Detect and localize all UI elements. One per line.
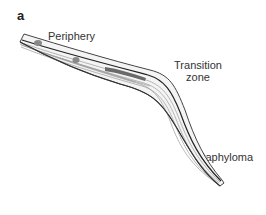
cell-body-2 — [73, 57, 80, 63]
cell-body-1 — [34, 40, 42, 46]
sclera-tissue-diagram — [0, 0, 266, 215]
inner-boundary-line — [22, 40, 221, 181]
